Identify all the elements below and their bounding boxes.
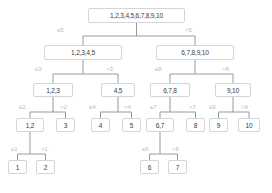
tree-node-label: 6 [148,164,151,171]
tree-node-l4b[interactable]: 2 [36,160,55,174]
tree-node-l3g[interactable]: 9 [209,118,228,132]
tree-node-l4d[interactable]: 7 [168,160,187,174]
tree-node-label: 8 [194,122,197,129]
tree-edge-label-e-l3e-left: ≤6 [142,146,149,152]
tree-edge-label-e-root-right: >5 [185,27,192,33]
tree-node-l2b[interactable]: 4,5 [101,83,135,97]
tree-node-l2a[interactable]: 1,2,3 [33,83,73,97]
tree-node-l3f[interactable]: 8 [186,118,205,132]
tree-edge-label-e-l1b-right: >8 [222,66,229,72]
tree-edge-label-e-l2d-left: ≤9 [209,104,216,110]
tree-edge-label-e-l2d-right: >9 [241,104,248,110]
tree-node-l3d[interactable]: 5 [122,118,141,132]
tree-node-label: 6,7,8,9,10 [181,49,208,56]
tree-node-l3b[interactable]: 3 [56,118,75,132]
tree-node-label: 6,7,8 [163,87,177,94]
tree-node-root[interactable]: 1,2,3,4,5,6,7,8,9,10 [88,8,185,23]
tree-edge-label-e-l2c-left: ≤7 [150,104,157,110]
tree-node-label: 2 [44,164,47,171]
tree-node-l2c[interactable]: 6,7,8 [150,83,190,97]
tree-node-label: 6,7 [156,122,165,129]
tree-node-label: 9 [217,122,220,129]
tree-node-l4a[interactable]: 1 [8,160,27,174]
tree-node-label: 10 [246,122,253,129]
tree-edge-label-e-root-left: ≤5 [57,27,64,33]
tree-edge-label-e-l1b-left: ≤8 [155,66,162,72]
tree-node-l4c[interactable]: 6 [140,160,159,174]
tree-node-label: 1,2,3 [46,87,60,94]
tree-edge-label-e-l1a-right: >3 [106,66,113,72]
tree-edge-connector [83,23,195,45]
tree-node-l1a[interactable]: 1,2,3,4,5 [44,45,122,60]
tree-node-label: 3 [64,122,67,129]
tree-node-label: 9,10 [227,87,239,94]
tree-node-l3h[interactable]: 10 [238,118,260,132]
tree-node-label: 1,2,3,4,5 [71,49,95,56]
tree-node-label: 4 [99,122,102,129]
tree-node-label: 4,5 [114,87,123,94]
tree-edge-label-e-l2c-right: >7 [189,104,196,110]
tree-node-label: 5 [130,122,133,129]
tree-node-label: 1,2 [26,122,35,129]
tree-node-l1b[interactable]: 6,7,8,9,10 [156,45,234,60]
tree-edge-label-e-l3a-left: ≤1 [11,146,18,152]
tree-edge-label-e-l2b-right: >4 [124,104,131,110]
tree-diagram-canvas: 1,2,3,4,5,6,7,8,9,101,2,3,4,56,7,8,9,101… [0,0,272,193]
tree-edge-label-e-l2a-right: >2 [60,104,67,110]
tree-edge-label-e-l2b-left: ≤4 [89,104,96,110]
tree-edge-label-e-l1a-left: ≤3 [35,66,42,72]
tree-node-l3a[interactable]: 1,2 [16,118,44,132]
tree-edge-label-e-l2a-left: ≤2 [19,104,26,110]
tree-edge-label-e-l3a-right: >1 [41,146,48,152]
tree-node-label: 7 [176,164,179,171]
tree-node-l3c[interactable]: 4 [91,118,110,132]
tree-node-l2d[interactable]: 9,10 [215,83,251,97]
tree-edge-label-e-l3e-right: >6 [172,146,179,152]
tree-node-label: 1 [16,164,19,171]
tree-node-l3e[interactable]: 6,7 [146,118,174,132]
tree-node-label: 1,2,3,4,5,6,7,8,9,10 [110,12,163,19]
